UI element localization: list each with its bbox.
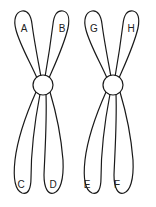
arm-g bbox=[85, 11, 111, 78]
arm-a bbox=[15, 11, 41, 78]
label-g: G bbox=[90, 23, 98, 34]
chromosome-left bbox=[14, 11, 69, 194]
label-b: B bbox=[59, 23, 66, 34]
centromere-left bbox=[33, 75, 53, 95]
label-h: H bbox=[127, 23, 134, 34]
label-d: D bbox=[49, 179, 56, 190]
centromere-right bbox=[103, 75, 123, 95]
label-f: F bbox=[114, 179, 120, 190]
label-c: C bbox=[17, 179, 24, 190]
chromosome-right bbox=[84, 11, 139, 194]
arm-b bbox=[45, 11, 69, 78]
label-a: A bbox=[21, 23, 28, 34]
label-e: E bbox=[84, 179, 91, 190]
arm-h bbox=[115, 11, 139, 78]
chromosome-diagram: A B C D G H E F bbox=[0, 0, 156, 207]
